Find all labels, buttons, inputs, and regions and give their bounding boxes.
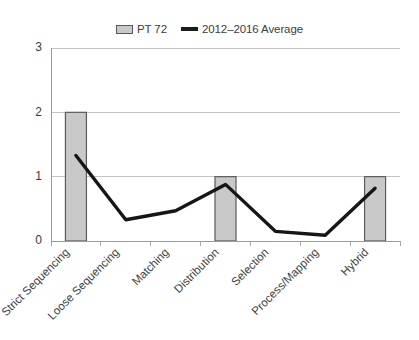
y-tick-label: 3 [35, 40, 42, 54]
x-axis-category-labels: Strict SequencingLoose SequencingMatchin… [0, 246, 370, 322]
x-category-label: Distribution [172, 246, 221, 295]
x-category-label: Selection [229, 246, 271, 288]
bar [65, 112, 86, 241]
plot-area: 0123 Strict SequencingLoose SequencingMa… [0, 0, 419, 340]
x-axis-tickmarks [51, 241, 400, 246]
y-axis-ticks: 0123 [35, 40, 42, 247]
y-tick-label: 0 [35, 233, 42, 247]
y-tick-label: 2 [35, 105, 42, 119]
chart-container: PT 72 2012–2016 Average 0123 Strict Sequ… [0, 0, 419, 340]
bar [365, 177, 386, 241]
gridlines [51, 48, 400, 177]
x-category-label: Matching [130, 246, 171, 287]
y-tick-label: 1 [35, 169, 42, 183]
x-category-label: Hybrid [339, 246, 371, 278]
